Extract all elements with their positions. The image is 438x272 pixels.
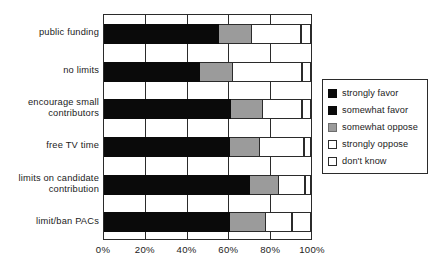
x-tick-label-100: 100% bbox=[299, 244, 325, 255]
category-label-line: free TV time bbox=[0, 140, 99, 151]
gridline-20 bbox=[145, 15, 146, 239]
bar-segment-dont-know bbox=[301, 24, 311, 44]
x-tick-label-80: 80% bbox=[260, 244, 280, 255]
legend-label: strongly favor bbox=[342, 88, 398, 98]
legend-swatch-icon bbox=[328, 140, 337, 149]
category-label-line: limits on candidate bbox=[0, 173, 99, 184]
bar-segment-dont-know bbox=[302, 99, 311, 119]
bar-segment-strongly-oppose bbox=[265, 212, 292, 232]
legend-swatch-icon bbox=[328, 89, 337, 98]
bar-segment-strongly-oppose bbox=[232, 62, 302, 82]
bar-segment-favor bbox=[104, 62, 200, 82]
chart-legend: strongly favorsomewhat favorsomewhat opp… bbox=[322, 79, 428, 174]
category-label-line: contribution bbox=[0, 184, 99, 195]
legend-swatch-icon bbox=[328, 157, 337, 166]
bar-row bbox=[104, 175, 311, 195]
x-tick-label-20: 20% bbox=[135, 244, 155, 255]
x-tick-label-40: 40% bbox=[177, 244, 197, 255]
gridline-60 bbox=[228, 15, 229, 239]
plot-area bbox=[103, 14, 312, 240]
bar-segment-somewhat-oppose bbox=[219, 24, 251, 44]
category-label-line: public funding bbox=[0, 27, 99, 38]
legend-label: somewhat oppose bbox=[342, 122, 418, 132]
legend-label: strongly oppose bbox=[342, 139, 408, 149]
category-label-line: contributors bbox=[0, 108, 99, 119]
category-label-line: encourage small bbox=[0, 97, 99, 108]
x-tick-label-0: 0% bbox=[96, 244, 110, 255]
legend-item[interactable]: somewhat oppose bbox=[328, 119, 423, 135]
bar-segment-somewhat-oppose bbox=[230, 212, 265, 232]
bar-segment-somewhat-oppose bbox=[250, 175, 278, 195]
x-axis-tick-labels: 0%20%40%60%80%100% bbox=[103, 244, 312, 260]
category-label: free TV time bbox=[0, 140, 99, 151]
category-label-line: no limits bbox=[0, 65, 99, 76]
category-label: limits on candidatecontribution bbox=[0, 173, 99, 195]
legend-swatch-icon bbox=[328, 106, 337, 115]
category-label-line: limit/ban PACs bbox=[0, 216, 99, 227]
bar-row bbox=[104, 24, 311, 44]
bar-segment-somewhat-oppose bbox=[231, 99, 262, 119]
category-axis-labels: public fundingno limitsencourage smallco… bbox=[0, 14, 99, 240]
legend-item[interactable]: somewhat favor bbox=[328, 102, 423, 118]
bar-row bbox=[104, 62, 311, 82]
bar-segment-favor bbox=[104, 99, 231, 119]
bar-segment-dont-know bbox=[304, 137, 311, 157]
bar-segment-favor bbox=[104, 24, 219, 44]
bar-segment-dont-know bbox=[302, 62, 311, 82]
bar-segment-favor bbox=[104, 212, 230, 232]
bar-segment-strongly-oppose bbox=[259, 137, 303, 157]
bar-segment-favor bbox=[104, 175, 250, 195]
gridline-80 bbox=[270, 15, 271, 239]
category-label: no limits bbox=[0, 65, 99, 76]
bar-segment-favor bbox=[104, 137, 230, 157]
bar-segment-somewhat-oppose bbox=[230, 137, 260, 157]
plot-inner bbox=[104, 15, 311, 239]
stacked-bar-chart: public fundingno limitsencourage smallco… bbox=[0, 0, 438, 272]
gridline-40 bbox=[187, 15, 188, 239]
bar-row bbox=[104, 99, 311, 119]
bar-segment-dont-know bbox=[305, 175, 311, 195]
x-tick-label-60: 60% bbox=[218, 244, 238, 255]
category-label: encourage smallcontributors bbox=[0, 97, 99, 119]
legend-label: somewhat favor bbox=[342, 105, 408, 115]
legend-label: don't know bbox=[342, 156, 387, 166]
bar-segment-strongly-oppose bbox=[262, 99, 302, 119]
category-label: limit/ban PACs bbox=[0, 216, 99, 227]
bar-row bbox=[104, 212, 311, 232]
legend-swatch-icon bbox=[328, 123, 337, 132]
bar-row bbox=[104, 137, 311, 157]
legend-item[interactable]: strongly favor bbox=[328, 85, 423, 101]
legend-item[interactable]: don't know bbox=[328, 153, 423, 169]
bar-segment-somewhat-oppose bbox=[200, 62, 232, 82]
category-label: public funding bbox=[0, 27, 99, 38]
bar-segment-dont-know bbox=[292, 212, 311, 232]
legend-item[interactable]: strongly oppose bbox=[328, 136, 423, 152]
bar-segment-strongly-oppose bbox=[251, 24, 301, 44]
bar-segment-strongly-oppose bbox=[278, 175, 305, 195]
